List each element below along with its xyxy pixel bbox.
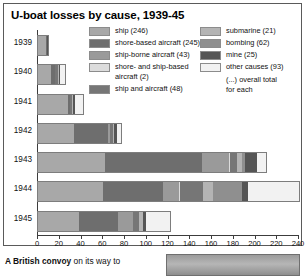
x-tick-label: 0 — [35, 239, 39, 248]
x-tick-label: 80 — [120, 239, 128, 248]
x-tick-label: 20 — [55, 239, 63, 248]
bar-segment — [38, 124, 74, 143]
x-tick-label: 220 — [270, 239, 283, 248]
plot-area: 1939194019411942194319441945020406080100… — [37, 30, 298, 235]
x-tick-label: 140 — [183, 239, 196, 248]
chart-row-1939: 1939 — [37, 30, 298, 59]
x-tick-label: 160 — [205, 239, 218, 248]
bar-segment — [118, 212, 132, 231]
x-tick-label: 60 — [98, 239, 106, 248]
bar-segment — [38, 153, 105, 172]
chart-row-1943: 1943 — [37, 147, 298, 176]
bar-segment — [163, 182, 179, 201]
bar-segment — [202, 153, 229, 172]
convoy-photo — [166, 254, 300, 276]
bar-segment — [146, 212, 170, 231]
chart-row-1942: 1942 — [37, 118, 298, 147]
bar-segment — [257, 153, 267, 172]
bar-segment — [38, 95, 68, 114]
bar-segment — [213, 182, 242, 201]
bar-segment — [75, 95, 83, 114]
x-tick-label: 40 — [76, 239, 84, 248]
chart-figure: U-boat losses by cause, 1939-45 ship (24… — [3, 3, 302, 246]
bar-segment — [245, 153, 257, 172]
bar-segment — [74, 124, 108, 143]
bar-segment — [248, 182, 299, 201]
bar-segment — [203, 182, 213, 201]
bar-segment — [47, 36, 48, 55]
caption-lead: A British convoy — [5, 256, 71, 266]
stacked-bar-1942[interactable] — [37, 123, 122, 144]
screenshot-root: U-boat losses by cause, 1939-45 ship (24… — [0, 0, 307, 276]
bar-segment — [38, 65, 51, 84]
x-tick-label: 200 — [248, 239, 261, 248]
bar-segment — [60, 65, 65, 84]
bar-segment — [117, 124, 120, 143]
y-axis-label-1939: 1939 — [14, 38, 32, 47]
bar-segment — [79, 212, 118, 231]
chart-row-1945: 1945 — [37, 206, 298, 235]
caption-rest: on its way to — [71, 256, 120, 266]
stacked-bar-1945[interactable] — [37, 211, 171, 232]
y-axis-label-1945: 1945 — [14, 214, 32, 223]
x-tick-label: 100 — [139, 239, 152, 248]
chart-title: U-boat losses by cause, 1939-45 — [11, 9, 184, 21]
stacked-bar-1943[interactable] — [37, 152, 267, 173]
y-axis-label-1941: 1941 — [14, 97, 32, 106]
bar-segment — [38, 36, 46, 55]
bar-segment — [105, 153, 202, 172]
stacked-bar-1941[interactable] — [37, 94, 84, 115]
caption-text: A British convoy on its way to — [5, 256, 155, 266]
y-axis-label-1943: 1943 — [14, 155, 32, 164]
stacked-bar-1940[interactable] — [37, 64, 66, 85]
x-tick-label: 120 — [161, 239, 174, 248]
chart-row-1944: 1944 — [37, 176, 298, 205]
caption-area: A British convoy on its way to — [3, 252, 302, 276]
bar-segment — [180, 182, 203, 201]
chart-row-1940: 1940 — [37, 59, 298, 88]
x-tick-label: 240 — [292, 239, 305, 248]
x-tick-label: 180 — [226, 239, 239, 248]
bar-segment — [38, 182, 103, 201]
y-axis-label-1940: 1940 — [14, 67, 32, 76]
y-axis-label-1942: 1942 — [14, 126, 32, 135]
stacked-bar-1944[interactable] — [37, 181, 300, 202]
chart-row-1941: 1941 — [37, 89, 298, 118]
bar-segment — [38, 212, 79, 231]
bar-segment — [103, 182, 163, 201]
y-axis-label-1944: 1944 — [14, 184, 32, 193]
stacked-bar-1939[interactable] — [37, 35, 49, 56]
